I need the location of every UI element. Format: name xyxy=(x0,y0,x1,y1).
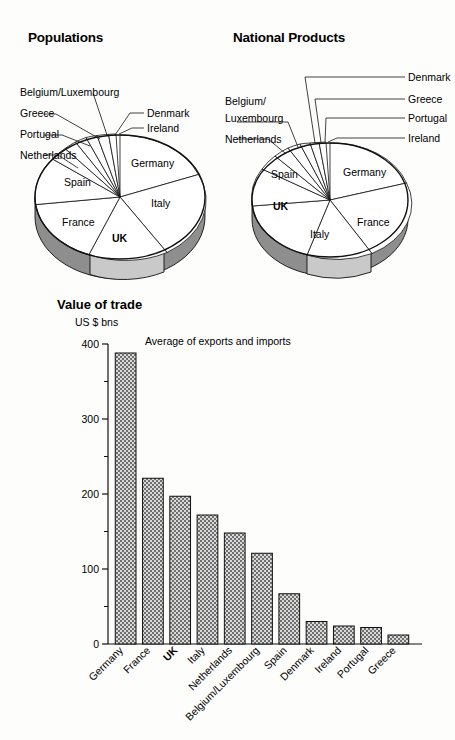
bar-belgium-luxembourg[interactable] xyxy=(252,553,273,644)
y-axis-tick-label: 0 xyxy=(93,638,99,650)
np-label-denmark: Denmark xyxy=(408,71,451,83)
pop-label-uk: UK xyxy=(112,232,128,244)
np-label-spain: Spain xyxy=(271,168,298,180)
np-label-netherlands: Netherlands xyxy=(225,133,282,145)
bar-ireland[interactable] xyxy=(333,626,354,644)
chart-page: Populations xyxy=(0,0,455,740)
pop-label-spain: Spain xyxy=(64,176,91,188)
x-axis-category-label: Germany xyxy=(86,643,126,683)
np-label-belgium-line1: Belgium/ xyxy=(225,95,266,107)
pop-label-italy: Italy xyxy=(151,197,171,209)
populations-pie-chart: Belgium/Luxembourg Greece Portugal Nethe… xyxy=(20,60,220,290)
np-label-italy: Italy xyxy=(310,228,330,240)
pop-label-portugal: Portugal xyxy=(20,128,59,140)
np-label-greece: Greece xyxy=(408,93,443,105)
pop-label-greece: Greece xyxy=(20,107,55,119)
bar-italy[interactable] xyxy=(197,515,218,644)
pop-label-netherlands: Netherlands xyxy=(20,149,77,161)
y-axis-tick-label: 400 xyxy=(81,338,99,350)
np-label-belgium-line2: Luxembourg xyxy=(225,112,284,124)
bar-greece[interactable] xyxy=(388,635,409,644)
bar-germany[interactable] xyxy=(115,353,136,644)
y-axis-tick-label: 200 xyxy=(81,488,99,500)
x-axis-category-label: France xyxy=(121,644,153,676)
np-label-uk: UK xyxy=(273,200,289,212)
bar-spain[interactable] xyxy=(279,594,300,644)
value-of-trade-bar-chart: Value of trade US $ bns Average of expor… xyxy=(0,292,455,740)
pop-label-denmark: Denmark xyxy=(147,107,190,119)
np-label-germany: Germany xyxy=(343,166,387,178)
national-products-title: National Products xyxy=(233,30,345,45)
y-axis-tick-label: 300 xyxy=(81,413,99,425)
pop-label-ireland: Ireland xyxy=(147,122,179,134)
np-label-ireland: Ireland xyxy=(408,132,440,144)
bar-plot-area: 0100200300400GermanyFranceUKItalyNetherl… xyxy=(81,338,422,723)
bar-portugal[interactable] xyxy=(361,628,382,645)
populations-title: Populations xyxy=(28,30,103,45)
national-products-pie-chart: Belgium/ Luxembourg Netherlands Denmark … xyxy=(225,48,455,290)
pop-label-germany: Germany xyxy=(131,157,175,169)
np-label-portugal: Portugal xyxy=(408,112,447,124)
bar-denmark[interactable] xyxy=(306,622,327,645)
bar-uk[interactable] xyxy=(170,496,191,644)
pop-label-belgium-luxembourg: Belgium/Luxembourg xyxy=(20,86,119,98)
bar-netherlands[interactable] xyxy=(224,533,245,644)
y-axis-tick-label: 100 xyxy=(81,563,99,575)
x-axis-category-label: UK xyxy=(160,644,180,664)
x-axis-category-label: Greece xyxy=(365,644,398,677)
np-label-france: France xyxy=(357,216,390,228)
pop-label-france: France xyxy=(62,216,95,228)
x-axis-category-label: Italy xyxy=(185,643,208,666)
bar-france[interactable] xyxy=(143,478,164,644)
